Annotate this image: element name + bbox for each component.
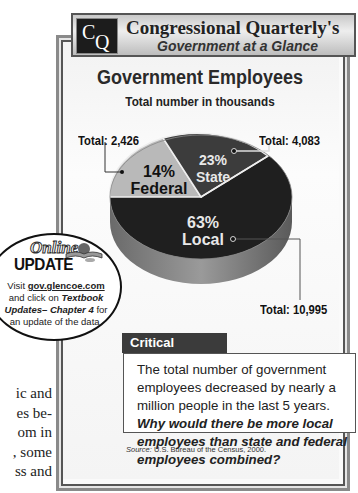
critical-thinking-header: Critical Thinking [122,333,227,353]
local-name: Local [178,231,228,248]
local-percent: 63% [178,214,228,231]
federal-total-label: Total: 2,426 [78,134,139,148]
online-update-text: Visit gov.glencoe.com and click on Textb… [0,280,112,328]
local-slice-label: 63% Local [178,214,228,248]
critical-thinking-text: The total number of government employees… [137,362,336,413]
federal-slice-label: 14% Federal [124,163,194,197]
glencoe-link[interactable]: gov.glencoe.com [28,280,105,291]
online-update-label: UPDATE [14,255,73,275]
state-total-label: Total: 4,083 [259,134,320,148]
local-total-label: Total: 10,995 [260,303,327,317]
state-slice-label: 23% State [190,152,236,186]
source-note: Source: U.S. Bureau of the Census, 2000. [126,445,266,454]
federal-name: Federal [124,180,194,197]
state-percent: 23% [190,152,236,169]
federal-percent: 14% [124,163,194,180]
critical-thinking-box: The total number of government employees… [123,353,356,433]
state-name: State [190,169,236,186]
